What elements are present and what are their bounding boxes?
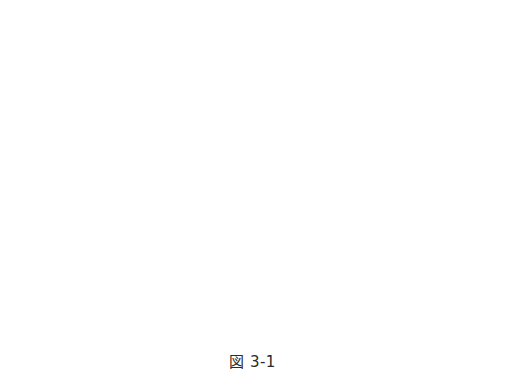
figure-caption: 図 3-1 bbox=[0, 350, 505, 371]
set-mapping-diagram bbox=[0, 0, 505, 380]
